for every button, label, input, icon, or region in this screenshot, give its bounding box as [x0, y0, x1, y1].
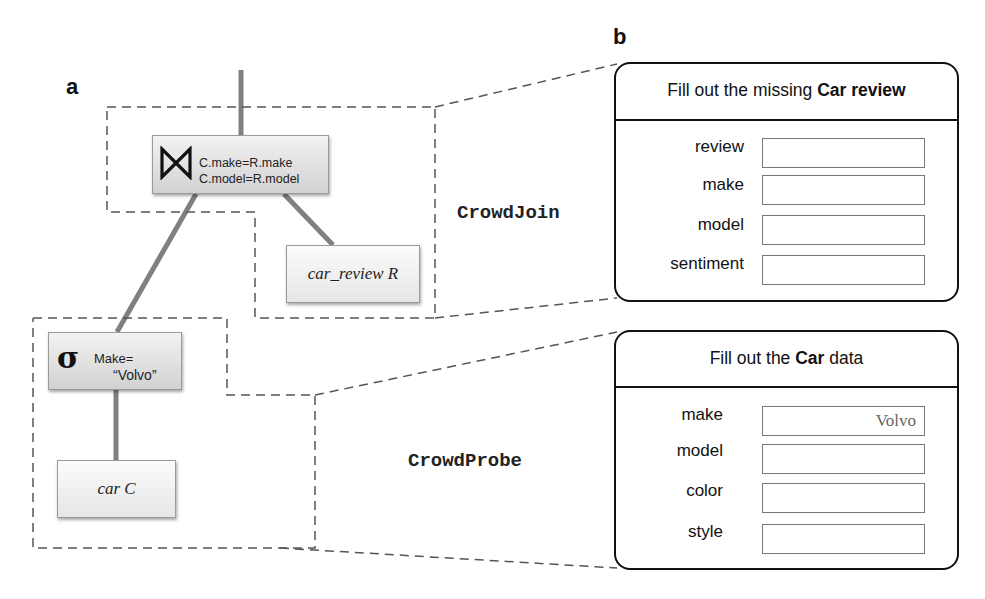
car-data-form: Fill out the Car data make Volvo model c… [614, 330, 959, 570]
relation-car-label: car C [58, 479, 175, 499]
style-input[interactable] [762, 524, 925, 554]
field-label-make: make [681, 405, 723, 425]
sigma-icon: σ [57, 343, 79, 373]
form-title-text: Fill out the missing [667, 80, 817, 100]
select-node: σ Make= “Volvo” [48, 332, 182, 390]
sentiment-input[interactable] [762, 255, 925, 285]
review-input[interactable] [762, 138, 925, 168]
relation-car: car C [57, 460, 176, 518]
field-label-model: model [698, 215, 744, 235]
crowdjoin-connector-bottom [435, 298, 617, 318]
make-input[interactable]: Volvo [762, 406, 925, 436]
field-label-color: color [686, 481, 723, 501]
crowdjoin-connector-top [435, 64, 617, 107]
make-input[interactable] [762, 175, 925, 205]
crowdprobe-connector-bottom [280, 548, 617, 568]
car-data-form-title: Fill out the Car data [616, 332, 957, 388]
field-label-model: model [677, 441, 723, 461]
relation-car-review: car_review R [286, 245, 420, 303]
field-label-sentiment: sentiment [670, 254, 744, 274]
crowdprobe-label: CrowdProbe [408, 450, 522, 472]
join-condition-model: C.model=R.model [199, 172, 299, 187]
edge-join-to-select [117, 194, 196, 332]
field-label-review: review [695, 137, 744, 157]
color-input[interactable] [762, 483, 925, 513]
model-input[interactable] [762, 215, 925, 245]
field-label-make: make [702, 175, 744, 195]
edge-join-to-car-review [284, 194, 333, 245]
select-condition-line1: Make= [94, 351, 133, 366]
form-title-bold: Car [795, 348, 824, 368]
join-node: C.make=R.make C.model=R.model [152, 135, 329, 194]
crowdprobe-connector-top [315, 332, 617, 395]
select-condition-line2: “Volvo” [113, 368, 157, 383]
field-label-style: style [688, 522, 723, 542]
panel-label-a: a [66, 74, 78, 100]
join-bowtie-icon [159, 146, 193, 180]
car-review-form: Fill out the missing Car review review m… [614, 62, 959, 302]
panel-label-b: b [613, 24, 626, 50]
car-review-form-title: Fill out the missing Car review [616, 64, 957, 121]
relation-car-review-label: car_review R [287, 264, 419, 284]
form-title-text: Fill out the [710, 348, 796, 368]
join-condition-make: C.make=R.make [199, 156, 292, 171]
model-input[interactable] [762, 444, 925, 474]
form-title-suffix: data [824, 348, 863, 368]
crowdjoin-label: CrowdJoin [457, 202, 560, 224]
form-title-bold: Car review [817, 80, 906, 100]
